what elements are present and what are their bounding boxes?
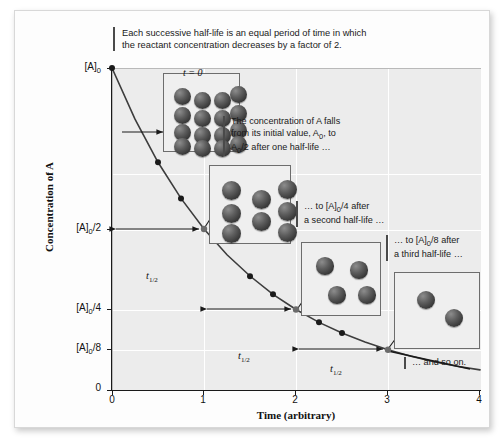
molecule-sphere xyxy=(222,224,241,243)
molecule-sphere xyxy=(222,181,241,200)
molecule-sphere xyxy=(222,204,241,223)
half3-box xyxy=(394,272,480,349)
t0-time-label: t = 0 xyxy=(183,67,203,78)
note3-line1: … to [A]0/8 after xyxy=(394,235,459,245)
curve-marker xyxy=(155,159,161,165)
molecule-sphere xyxy=(252,190,271,209)
note-third-half-life: … to [A]0/8 after a third half-life … xyxy=(386,235,502,261)
molecule-sphere xyxy=(417,291,435,309)
molecule-sphere xyxy=(278,202,297,221)
curve-marker xyxy=(201,226,207,232)
note1-line3: A0/2 after one half-life … xyxy=(231,142,331,152)
molecule-sphere xyxy=(174,88,191,105)
figure-card: Each successive half-life is an equal pe… xyxy=(14,10,490,428)
curve-marker xyxy=(385,347,391,353)
note-first-half-life: The concentration of A falls from its in… xyxy=(223,116,351,156)
curve-marker xyxy=(270,291,276,297)
molecule-sphere xyxy=(445,309,463,327)
note4-text: … and so on. xyxy=(412,357,466,367)
molecule-sphere xyxy=(358,286,376,304)
curve-marker xyxy=(316,319,322,325)
half-life-label-1: t1/2 xyxy=(146,270,158,284)
molecule-sphere xyxy=(174,107,191,124)
half2-box xyxy=(301,242,381,316)
half-life-label-3: t1/2 xyxy=(330,363,342,377)
half1-box xyxy=(209,165,291,244)
molecule-sphere xyxy=(194,110,211,127)
note-and-so-on: … and so on. xyxy=(404,357,497,369)
molecule-sphere xyxy=(214,92,231,109)
curve-marker xyxy=(109,65,115,71)
note2-line1: … to [A]0/4 after xyxy=(304,201,369,211)
curve-marker xyxy=(178,196,184,202)
note3-line2: a third half-life … xyxy=(394,249,463,259)
note1-line2: from its initial value, A0, to xyxy=(231,128,336,138)
curve-marker xyxy=(339,330,345,336)
molecule-sphere xyxy=(328,286,346,304)
molecule-sphere xyxy=(252,212,271,231)
curve-marker xyxy=(293,306,299,312)
molecule-sphere xyxy=(350,261,368,279)
note-second-half-life: … to [A]0/4 after a second half-life … xyxy=(296,201,414,227)
molecule-sphere xyxy=(278,223,297,242)
molecule-sphere xyxy=(316,257,334,275)
note2-line2: a second half-life … xyxy=(304,215,384,225)
curve-marker xyxy=(247,273,253,279)
half-life-figure: Each successive half-life is an equal pe… xyxy=(0,0,503,441)
half-life-label-2: t1/2 xyxy=(238,350,250,364)
molecule-sphere xyxy=(278,180,297,199)
molecule-sphere xyxy=(194,92,211,109)
note1-line1: The concentration of A falls xyxy=(231,116,340,126)
